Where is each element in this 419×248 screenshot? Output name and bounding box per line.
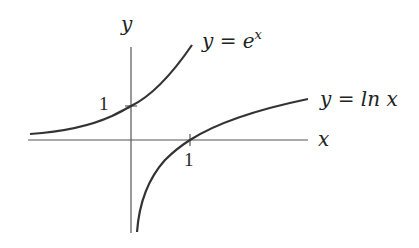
exp-curve-label: y = ex <box>201 27 263 53</box>
x-axis-label: x <box>318 127 329 151</box>
y-tick-label: 1 <box>99 93 109 114</box>
diagram-canvas: y x 1 1 y = ex y = ln x <box>0 0 419 248</box>
ln-curve <box>137 99 308 232</box>
x-tick-label: 1 <box>184 149 194 170</box>
ln-curve-label: y = ln x <box>319 87 398 111</box>
exp-curve <box>30 45 192 134</box>
y-axis-label: y <box>120 12 133 36</box>
